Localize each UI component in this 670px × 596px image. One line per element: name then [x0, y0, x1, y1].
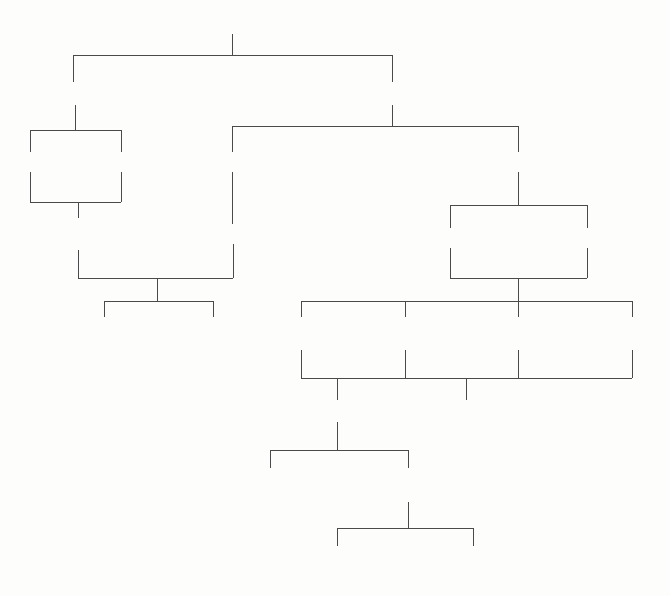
hot-water-system-choices-diagram — [0, 0, 670, 596]
tree-connector-lines — [0, 0, 670, 596]
